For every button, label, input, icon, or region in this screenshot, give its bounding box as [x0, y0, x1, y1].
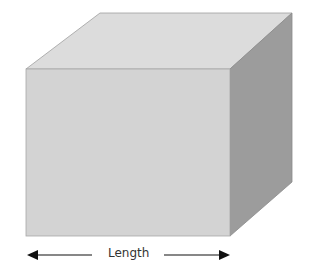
length-arrow-left: [27, 250, 92, 260]
length-arrow-right: [164, 250, 230, 260]
cube-front-face: [26, 69, 230, 236]
cube-diagram: [0, 0, 310, 275]
length-label: Length: [108, 246, 149, 260]
